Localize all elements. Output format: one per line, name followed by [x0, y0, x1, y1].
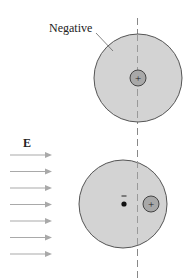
polarized-atom: + [79, 160, 167, 248]
unpolarized-atom: + [94, 34, 182, 122]
negative-label: Negative [49, 21, 92, 36]
label-leader [96, 33, 113, 51]
electron-center [121, 201, 126, 206]
plus-sign: + [148, 198, 154, 210]
plus-sign: + [135, 72, 141, 84]
field-label: E [23, 136, 31, 151]
electric-field-arrows [10, 152, 52, 257]
